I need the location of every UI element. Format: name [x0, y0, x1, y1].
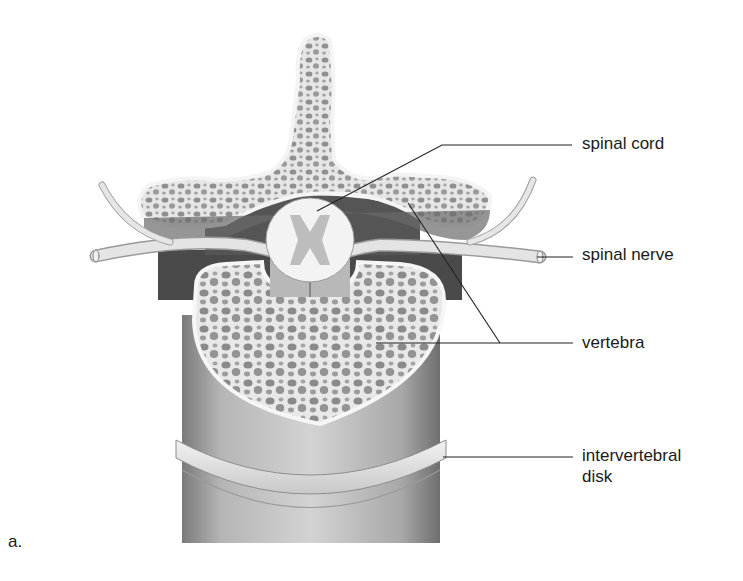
label-vertebra: vertebra — [582, 333, 644, 353]
label-spinal-nerve: spinal nerve — [582, 245, 674, 265]
label-spinal-cord: spinal cord — [582, 134, 664, 154]
label-intervertebral-disk-line2: disk — [582, 467, 612, 487]
panel-letter: a. — [8, 532, 22, 552]
vertebra-diagram — [0, 0, 743, 581]
spinal-cord-shape — [266, 198, 354, 297]
label-intervertebral-disk-line1: intervertebral — [582, 446, 681, 466]
